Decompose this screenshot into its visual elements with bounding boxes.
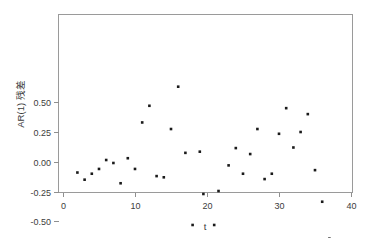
y-tick-label: -0.50 bbox=[30, 217, 51, 227]
scatter-point bbox=[217, 190, 220, 193]
scatter-point bbox=[184, 152, 187, 155]
scatter-point bbox=[91, 172, 94, 175]
scatter-point bbox=[314, 169, 317, 172]
scatter-point bbox=[202, 193, 205, 196]
scatter-point bbox=[199, 150, 202, 153]
x-tick-label: 10 bbox=[130, 201, 140, 211]
scatter-point bbox=[191, 224, 194, 227]
scatter-point bbox=[105, 159, 108, 162]
y-tick-label: 0.25 bbox=[33, 128, 51, 138]
y-tick-label: 0.50 bbox=[33, 98, 51, 108]
plot-canvas: 0.500.250.00-0.25-0.50-0.75 010203040 t … bbox=[0, 0, 367, 238]
scatter-point bbox=[242, 172, 245, 175]
x-axis-ticks bbox=[64, 193, 352, 198]
scatter-point bbox=[263, 178, 266, 181]
scatter-point bbox=[227, 164, 230, 167]
scatter-point bbox=[285, 107, 288, 110]
scatter-point bbox=[328, 237, 331, 238]
plot-frame bbox=[59, 15, 353, 193]
scatter-point bbox=[249, 153, 252, 156]
scatter-point bbox=[271, 172, 274, 175]
scatter-point bbox=[76, 171, 79, 174]
scatter-point bbox=[170, 128, 173, 131]
scatter-plot-figure: 0.500.250.00-0.25-0.50-0.75 010203040 t … bbox=[0, 0, 367, 238]
scatter-point bbox=[299, 131, 302, 134]
scatter-point bbox=[127, 157, 130, 160]
scatter-point bbox=[148, 104, 151, 107]
scatter-point bbox=[177, 85, 180, 88]
scatter-point bbox=[112, 162, 115, 165]
y-tick-label: -0.25 bbox=[30, 188, 51, 198]
scatter-point bbox=[307, 113, 310, 116]
x-tick-label: 30 bbox=[274, 201, 284, 211]
y-axis-ticks bbox=[54, 103, 59, 239]
scatter-point bbox=[119, 182, 122, 185]
scatter-point bbox=[235, 147, 238, 150]
y-axis-title: AR(1) 残差 bbox=[15, 80, 26, 127]
x-tick-label: 0 bbox=[61, 201, 66, 211]
scatter-point bbox=[98, 168, 101, 171]
scatter-point bbox=[256, 128, 259, 131]
y-tick-label: 0.00 bbox=[33, 158, 51, 168]
x-tick-label: 40 bbox=[346, 201, 356, 211]
scatter-point bbox=[292, 146, 295, 149]
scatter-points-group bbox=[76, 85, 331, 238]
scatter-point bbox=[278, 132, 281, 135]
scatter-point bbox=[155, 175, 158, 178]
x-axis-tick-labels: 010203040 bbox=[61, 201, 357, 211]
scatter-point bbox=[321, 200, 324, 203]
y-axis-tick-labels: 0.500.250.00-0.25-0.50-0.75 bbox=[30, 98, 51, 238]
scatter-point bbox=[141, 121, 144, 124]
scatter-point bbox=[213, 224, 216, 227]
scatter-point bbox=[83, 178, 86, 181]
scatter-point bbox=[163, 176, 166, 179]
x-tick-label: 20 bbox=[202, 201, 212, 211]
x-axis-title: t bbox=[204, 221, 207, 232]
scatter-point bbox=[134, 168, 137, 171]
